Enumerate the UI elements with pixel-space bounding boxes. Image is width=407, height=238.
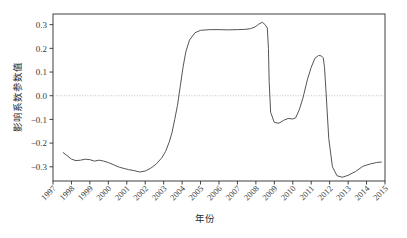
x-axis-tick-label: 2000: [94, 183, 113, 202]
x-axis-tick-label: 2012: [315, 183, 334, 202]
y-axis-tick-label: 0.0: [36, 91, 48, 101]
x-axis-tick-label: 2010: [279, 183, 298, 202]
y-axis-tick-label: −0.2: [31, 138, 47, 148]
x-axis-tick-label: 2014: [352, 183, 372, 203]
x-axis-tick-label: 2007: [223, 183, 242, 202]
x-axis-tick-label: 2001: [113, 183, 132, 202]
x-axis-tick-label: 2003: [149, 183, 168, 202]
x-axis-tick-label: 2011: [297, 183, 316, 202]
x-axis-tick-label: 2013: [334, 183, 353, 202]
x-axis-tick-label: 2009: [260, 183, 279, 202]
plot-area-border: [53, 14, 385, 181]
x-axis-tick-label: 2015: [371, 183, 390, 202]
y-axis-tick-label: 0.2: [36, 44, 47, 54]
y-axis-tick-label: −0.1: [31, 115, 47, 125]
line-chart: 0.30.20.10.0−0.1−0.2−0.3 199719981999200…: [0, 0, 407, 238]
x-axis-tick-label: 1998: [57, 183, 76, 202]
x-axis-tick-label: 2002: [131, 183, 150, 202]
y-axis-tick-label: 0.3: [36, 20, 48, 30]
x-axis-tick-marks: [53, 181, 385, 185]
x-axis-title: 年份: [195, 213, 215, 224]
plot-frame: [53, 14, 385, 181]
x-axis-tick-label: 2006: [205, 183, 224, 202]
y-axis-tick-label: −0.3: [31, 162, 48, 172]
x-axis-tick-label: 2008: [242, 183, 261, 202]
chart-figure: 0.30.20.10.0−0.1−0.2−0.3 199719981999200…: [0, 0, 407, 238]
y-axis-tick-labels: 0.30.20.10.0−0.1−0.2−0.3: [31, 20, 48, 172]
y-axis-title: 影响系数参数值: [12, 62, 23, 132]
x-axis-tick-label: 2005: [186, 183, 205, 202]
x-axis-tick-label: 1997: [39, 183, 58, 202]
y-axis-tick-label: 0.1: [36, 67, 47, 77]
y-axis-tick-marks: [50, 25, 54, 167]
x-axis-tick-label: 1999: [76, 183, 95, 202]
x-axis-tick-label: 2004: [168, 183, 188, 203]
x-axis-tick-labels: 1997199819992000200120022003200420052006…: [39, 183, 390, 203]
